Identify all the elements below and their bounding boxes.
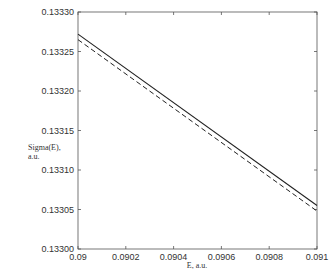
x-tick-label: 0.0906 (208, 252, 236, 262)
data-lines (78, 34, 317, 211)
y-axis-ticks: 0.133300.133250.133200.133150.133100.133… (41, 7, 317, 254)
y-axis-label-line1: Sigma(E), (28, 143, 61, 152)
x-tick-label: 0.091 (306, 252, 329, 262)
plot-frame (78, 12, 317, 249)
series-dashed (78, 40, 317, 211)
x-tick-label: 0.09 (69, 252, 87, 262)
y-tick-label: 0.13330 (41, 7, 74, 17)
y-tick-label: 0.13320 (41, 86, 74, 96)
y-tick-label: 0.13305 (41, 205, 74, 215)
series-solid (78, 34, 317, 205)
x-tick-label: 0.0908 (255, 252, 283, 262)
y-tick-label: 0.13315 (41, 126, 74, 136)
y-axis-label-line2: a.u. (28, 152, 40, 161)
x-axis-label: E, a.u. (187, 261, 207, 270)
x-tick-label: 0.0904 (160, 252, 188, 262)
y-tick-label: 0.13325 (41, 47, 74, 57)
x-tick-label: 0.0902 (112, 252, 140, 262)
y-tick-label: 0.13310 (41, 165, 74, 175)
x-axis-ticks: 0.090.09020.09040.09060.09080.091 (69, 12, 328, 262)
chart: 0.133300.133250.133200.133150.133100.133… (0, 0, 334, 273)
